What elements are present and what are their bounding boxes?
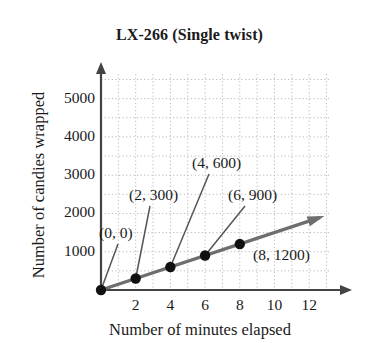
x-tick-label: 12 xyxy=(294,296,324,314)
y-tick-label: 5000 xyxy=(43,89,95,107)
chart-figure: LX-266 (Single twist) Number of candies … xyxy=(0,0,379,343)
x-tick-label: 2 xyxy=(121,296,151,314)
data-point-label: (6, 900) xyxy=(228,186,277,204)
x-tick-label: 6 xyxy=(190,296,220,314)
y-tick-label: 2000 xyxy=(43,203,95,221)
data-point-label: (2, 300) xyxy=(129,186,178,204)
y-tick-label: 1000 xyxy=(43,242,95,260)
x-tick-label: 8 xyxy=(225,296,255,314)
y-tick-label: 4000 xyxy=(43,127,95,145)
y-tick-label: 3000 xyxy=(43,165,95,183)
x-tick-label: 10 xyxy=(259,296,289,314)
x-tick-label: 4 xyxy=(155,296,185,314)
data-point-label: (8, 1200) xyxy=(253,246,310,264)
data-point-label: (4, 600) xyxy=(192,154,241,172)
axis-lines xyxy=(96,62,352,295)
data-point-label: (0, 0) xyxy=(99,224,133,242)
